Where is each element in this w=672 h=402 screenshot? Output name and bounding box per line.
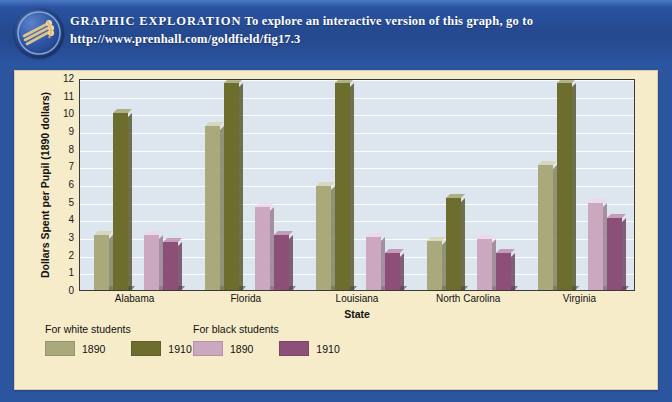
bar [366,237,381,290]
y-axis-tick-label: 4 [52,215,74,225]
bar-front-face [557,83,572,290]
x-axis-ticks: AlabamaFloridaLouisianaNorth CarolinaVir… [79,293,635,309]
bar-side-face [239,83,243,291]
legend-group-heading: For white students [45,323,192,335]
legend-swatch [279,341,309,356]
legend-entry: 1890 [193,341,253,356]
bar [113,113,128,290]
legend-label: 1890 [230,343,253,355]
bar-side-face [350,83,354,291]
banner-url-link[interactable]: http://www.prenhall.com/goldfield/fig17.… [70,30,630,48]
legend-group-heading: For black students [193,323,340,335]
banner-description: To explore an interactive version of thi… [245,14,534,28]
bar [427,241,442,290]
bar-front-face [366,237,381,290]
gridline [80,115,634,116]
bar-front-face [446,198,461,290]
gridline [80,133,634,134]
bar-front-face [427,241,442,290]
bar-front-face [113,113,128,290]
bar-front-face [94,235,109,290]
bar-side-face [400,253,404,291]
bar-side-face [622,218,626,291]
x-axis-tick-label: North Carolina [436,293,500,304]
y-axis-tick-label: 0 [52,286,74,296]
bar-front-face [205,126,220,290]
bar [335,83,350,290]
bar-front-face [477,239,492,290]
plot-area [79,79,635,291]
bar [477,239,492,290]
bar [385,253,400,290]
bar [316,186,331,290]
y-axis-tick-label: 10 [52,109,74,119]
legend-row: 18901910 [45,341,192,356]
bar-front-face [224,83,239,290]
globe-icon [14,8,64,58]
bar [496,253,511,290]
bar [557,83,572,290]
y-axis-tick-label: 11 [52,92,74,102]
y-axis-tick-label: 8 [52,145,74,155]
x-axis-tick-label: Florida [231,293,262,304]
graphic-exploration-banner: GRAPHIC EXPLORATION To explore an intera… [0,0,672,66]
y-axis-tick-label: 6 [52,180,74,190]
bar [588,203,603,290]
legend-label: 1910 [316,343,339,355]
bar-front-face [588,203,603,290]
y-axis-tick-label: 2 [52,251,74,261]
chart-card: Dollars Spent per Pupil (1890 dollars) 0… [14,70,658,390]
x-axis-tick-label: Alabama [115,293,154,304]
bar-front-face [538,165,553,290]
bar-front-face [144,235,159,290]
legend-group: For white students18901910 [45,323,192,356]
bar-front-face [316,186,331,290]
figure-page: GRAPHIC EXPLORATION To explore an intera… [0,0,672,402]
legend-entry: 1890 [45,341,105,356]
y-axis-ticks: 0123456789101112 [51,79,77,291]
banner-text-block: GRAPHIC EXPLORATION To explore an intera… [70,12,630,48]
legend-entry: 1910 [131,341,191,356]
y-axis-tick-label: 3 [52,233,74,243]
bar-side-face [572,83,576,291]
y-axis-tick-label: 1 [52,268,74,278]
bar-side-face [128,113,132,291]
gridline [80,151,634,152]
bar [163,242,178,290]
bar [255,207,270,290]
bar [205,126,220,290]
bar-side-face [289,235,293,291]
x-axis-tick-label: Louisiana [336,293,379,304]
bar-front-face [385,253,400,290]
bar [144,235,159,290]
bar [446,198,461,290]
bar-chart: Dollars Spent per Pupil (1890 dollars) 0… [29,79,647,309]
bar [274,235,289,290]
bar-front-face [335,83,350,290]
bar-front-face [255,207,270,290]
bar-front-face [496,253,511,290]
bar-front-face [607,218,622,290]
legend-swatch [193,341,223,356]
legend-label: 1890 [82,343,105,355]
banner-title: GRAPHIC EXPLORATION [70,14,241,28]
legend-swatch [45,341,75,356]
y-axis-tick-label: 5 [52,198,74,208]
bar-side-face [511,253,515,291]
y-axis-tick-label: 7 [52,162,74,172]
y-axis-tick-label: 12 [52,74,74,84]
y-axis-tick-label: 9 [52,127,74,137]
bar-front-face [274,235,289,290]
legend-row: 18901910 [193,341,340,356]
legend-entry: 1910 [279,341,339,356]
x-axis-tick-label: Virginia [563,293,596,304]
bar [607,218,622,290]
chart-legend: For white students18901910For black stud… [45,323,635,379]
legend-swatch [131,341,161,356]
gridline [80,80,634,81]
x-axis-title: State [79,308,635,320]
legend-group: For black students18901910 [193,323,340,356]
banner-highlight [0,0,672,7]
bar [538,165,553,290]
gridline [80,98,634,99]
